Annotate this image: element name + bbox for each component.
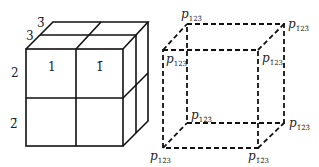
vertex-label-front-top-left: p123 [166, 52, 187, 68]
edge-bottom-right [258, 123, 284, 148]
diagram-canvas: 1 1̄ 2 2̄ 3 3̄ p123̄ p1̄23̄ p123 p1̄23 p… [0, 0, 319, 167]
edge-bottom-left [163, 123, 187, 148]
vertex-label-back-bottom-right: p1̄2̄3̄ [289, 116, 310, 132]
vertex-label-front-bottom-right: p1̄2̄3 [248, 149, 269, 165]
label-1-bar: 1̄ [96, 60, 104, 74]
vertex-label-back-top-left: p123̄ [181, 7, 202, 23]
vertex-label-back-top-right: p1̄23̄ [288, 17, 309, 33]
vertex-label-front-top-right: p1̄23 [262, 51, 283, 67]
back-face [187, 24, 284, 123]
vertex-label-front-bottom-left: p12̄3 [150, 149, 171, 165]
edge-top-right [258, 24, 284, 50]
label-1: 1 [48, 60, 56, 74]
label-2-bar: 2̄ [10, 117, 18, 131]
label-2: 2 [11, 66, 19, 80]
subdivided-cube [26, 22, 148, 146]
vertex-cube [163, 24, 284, 148]
vertex-label-back-bottom-left: p12̄3̄ [191, 108, 212, 124]
edge-top-left [163, 24, 187, 50]
label-3-bar: 3̄ [37, 16, 45, 30]
label-3: 3 [26, 29, 34, 43]
